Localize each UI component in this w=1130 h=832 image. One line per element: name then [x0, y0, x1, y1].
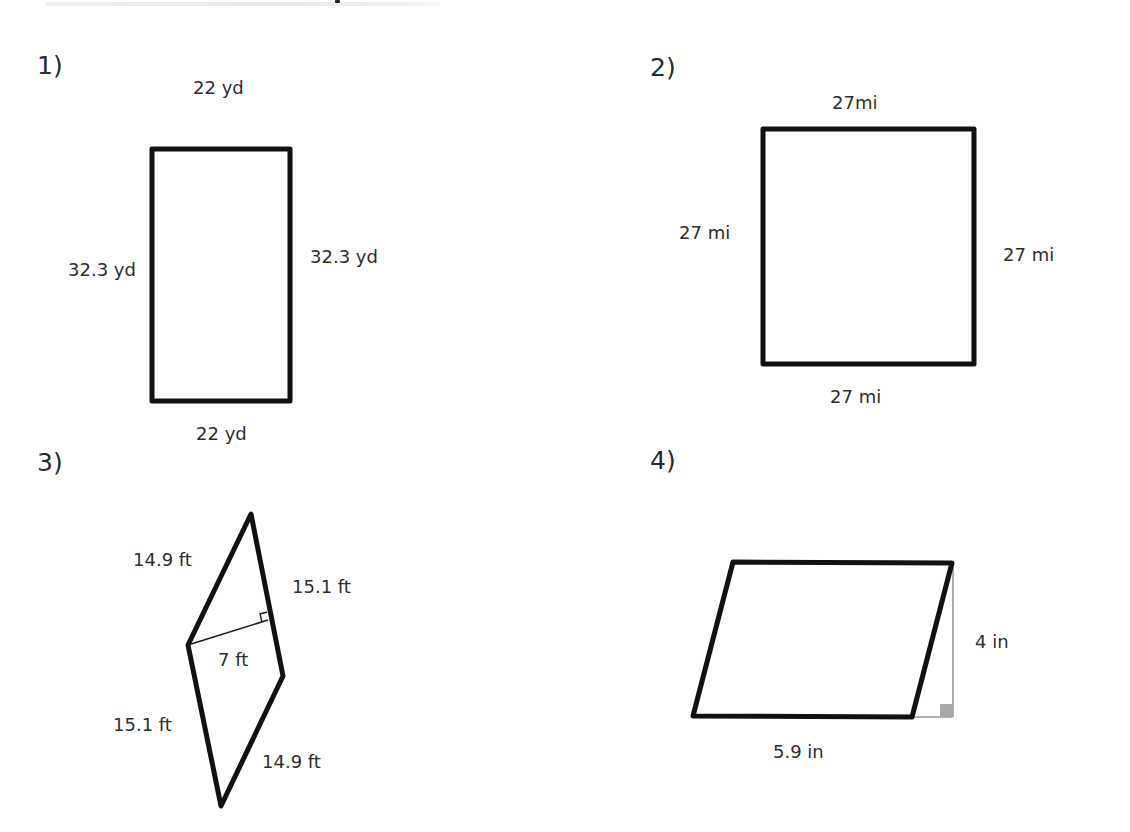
problem-number-1: 1) — [37, 52, 63, 80]
problem-2-left-label: 27 mi — [679, 222, 730, 244]
problem-number-4: 4) — [650, 447, 676, 475]
figure-2-square — [763, 129, 974, 364]
problem-2-top-label: 27mi — [832, 92, 877, 114]
problem-3-lower-right-label: 14.9 ft — [262, 751, 321, 773]
problem-3-lower-left-label: 15.1 ft — [113, 714, 172, 736]
problem-4-base-label: 5.9 in — [773, 741, 824, 763]
problem-2-bottom-label: 27 mi — [830, 386, 881, 408]
problem-1-right-label: 32.3 yd — [310, 246, 378, 268]
problem-1-bottom-label: 22 yd — [196, 423, 247, 445]
problem-number-3: 3) — [37, 449, 63, 477]
problem-3-height-label: 7 ft — [218, 649, 248, 671]
problem-1-top-label: 22 yd — [193, 77, 244, 99]
problem-1-left-label: 32.3 yd — [68, 259, 136, 281]
problem-number-2: 2) — [650, 54, 676, 82]
problem-2-right-label: 27 mi — [1003, 244, 1054, 266]
problem-3-upper-left-label: 14.9 ft — [133, 549, 192, 571]
problem-3-upper-right-label: 15.1 ft — [292, 576, 351, 598]
problem-4-height-label: 4 in — [975, 631, 1009, 653]
figure-1-rectangle — [152, 149, 290, 401]
figure-4-parallelogram — [693, 562, 953, 717]
right-angle-marker-filled-icon — [940, 704, 953, 717]
figures-canvas — [0, 0, 1130, 832]
